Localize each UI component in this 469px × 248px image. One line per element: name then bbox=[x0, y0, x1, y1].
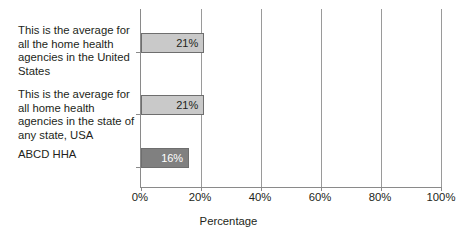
plot-area: 21% 21% 16% bbox=[140, 9, 441, 188]
bar-chart: This is the average for all the home hea… bbox=[0, 0, 469, 248]
category-label-2: ABCD HHA bbox=[18, 148, 136, 162]
x-tick-label-20: 20% bbox=[189, 191, 212, 203]
category-label-0: This is the average for all the home hea… bbox=[18, 24, 136, 78]
gridline-40 bbox=[261, 9, 262, 188]
x-tick-label-40: 40% bbox=[249, 191, 272, 203]
x-tick-label-0: 0% bbox=[132, 191, 148, 203]
gridline-80 bbox=[381, 9, 382, 188]
bar-abcd-hha[interactable]: 16% bbox=[141, 148, 189, 168]
x-tick-label-60: 60% bbox=[309, 191, 332, 203]
bar-value-label-1: 21% bbox=[176, 99, 203, 111]
gridline-60 bbox=[321, 9, 322, 188]
gridline-100 bbox=[441, 9, 442, 188]
bar-value-label-2: 16% bbox=[161, 152, 188, 164]
bar-national-average[interactable]: 21% bbox=[141, 33, 204, 53]
bar-value-label-0: 21% bbox=[176, 37, 203, 49]
x-axis-title: Percentage bbox=[0, 215, 469, 227]
x-tick-label-100: 100% bbox=[427, 191, 456, 203]
bar-state-average[interactable]: 21% bbox=[141, 95, 204, 115]
category-label-1: This is the average for all home health … bbox=[18, 88, 136, 142]
x-tick-label-80: 80% bbox=[369, 191, 392, 203]
x-axis-title-text: Percentage bbox=[200, 215, 258, 227]
